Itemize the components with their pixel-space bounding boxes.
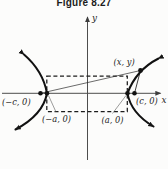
vertex-right-dot [125, 91, 130, 96]
y-axis-label: y [91, 13, 98, 23]
label-point-xy: (x, y) [114, 57, 135, 67]
label-focus-right: (c, 0) [136, 96, 158, 106]
vertex-left-dot [45, 91, 50, 96]
x-axis-label: x [162, 95, 167, 105]
focus-right-dot [132, 91, 137, 96]
hyperbola-right-branch [128, 59, 159, 127]
hyperbola-diagram: (−c, 0) (−a, 0) (a, 0) (c, 0) (x, y) y x [0, 0, 168, 169]
focal-radius-from-left-focus [41, 71, 141, 94]
leader-line-vertex-left [49, 96, 57, 113]
label-focus-left: (−c, 0) [2, 97, 31, 107]
label-vertex-left: (−a, 0) [42, 114, 71, 124]
point-xy-dot [138, 68, 143, 73]
figure-canvas: Figure 8.27 (−c, 0) [0, 0, 168, 169]
leader-line-vertex-right [113, 96, 127, 114]
focus-left-dot [38, 91, 43, 96]
label-vertex-right: (a, 0) [102, 115, 124, 125]
